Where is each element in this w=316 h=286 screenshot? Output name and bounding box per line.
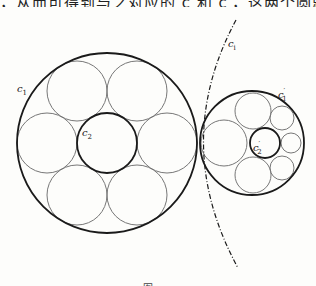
ring-circle-left-6 xyxy=(47,61,107,121)
ring-circle-left-3 xyxy=(107,165,167,225)
ring-circle-right-5 xyxy=(270,156,294,180)
circle-c2 xyxy=(77,113,137,173)
ring-circle-right-4 xyxy=(281,133,301,153)
circle-c1 xyxy=(17,53,197,233)
ring-circle-right-3 xyxy=(270,106,294,130)
label-c2: c2 xyxy=(82,127,92,141)
ring-circle-right-6 xyxy=(235,157,271,193)
label-c1-prime: c′1 xyxy=(278,87,287,103)
figure-caption-cropped: 图 xyxy=(143,280,173,286)
inversion-circle-ci xyxy=(203,20,238,268)
ring-circle-left-4 xyxy=(47,165,107,225)
ring-circle-right-1 xyxy=(201,120,247,166)
right-ring-circles xyxy=(201,93,301,193)
ring-circle-left-1 xyxy=(107,61,167,121)
left-ring-circles xyxy=(17,61,197,225)
circle-c1-prime xyxy=(200,91,304,195)
ring-circle-left-5 xyxy=(17,113,77,173)
label-c1: c1 xyxy=(17,83,27,97)
label-ci: ci xyxy=(228,38,237,52)
ring-circle-left-2 xyxy=(137,113,197,173)
ring-circle-right-2 xyxy=(235,93,271,129)
